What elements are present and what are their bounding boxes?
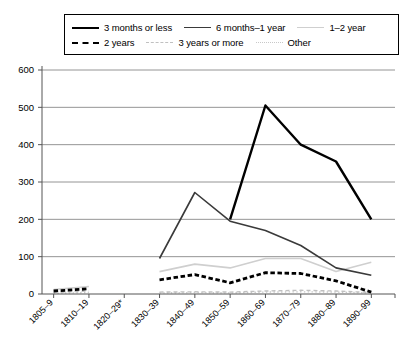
legend-label: Other [288, 37, 311, 48]
y-axis-tick-label: 200 [18, 214, 34, 225]
legend-label: 3 months or less [104, 22, 172, 33]
y-axis-ticks-group [38, 70, 42, 294]
legend-label: 2 years [104, 37, 134, 48]
y-axis-tick-label: 500 [18, 102, 34, 113]
series-line-other [54, 293, 89, 294]
series-line-3-years-or-more [160, 290, 372, 292]
legend-line-swatch-dotted-light-icon [256, 42, 283, 43]
y-axis-tick-label: 100 [18, 251, 34, 262]
x-axis-tick-label: 1850–59 [200, 297, 232, 329]
gridlines-group [42, 70, 395, 257]
legend-item-3-months-or-less: 3 months or less [72, 20, 184, 35]
x-axis-tick-label: 1870–79 [270, 297, 302, 329]
legend-label: 6 months–1 year [216, 22, 285, 33]
legend-line-swatch-solid-light-icon [297, 27, 324, 28]
series-line-6-months-1-year [160, 193, 372, 276]
legend-label: 3 years or more [178, 37, 243, 48]
legend-row-2: 2 years 3 years or more Other [72, 35, 391, 50]
chart-legend: 3 months or less 6 months–1 year 1–2 yea… [64, 14, 399, 55]
data-series-group [54, 106, 372, 294]
legend-item-6-months-1-year: 6 months–1 year [184, 20, 297, 35]
y-axis-tick-label: 600 [18, 64, 34, 75]
x-axis-tick-label: 1890–99 [341, 297, 373, 329]
series-line-1-2-year [160, 259, 372, 272]
legend-item-3-years-or-more: 3 years or more [146, 35, 255, 50]
x-axis-tick-label: 1805–9 [27, 297, 55, 325]
legend-line-swatch-solid-med-icon [184, 27, 211, 28]
axes-group [42, 66, 395, 294]
y-axis-tick-label: 400 [18, 139, 34, 150]
x-axis-tick-label: 1830–39 [129, 297, 161, 329]
legend-line-swatch-solid-thick-icon [72, 27, 99, 29]
x-axis-tick-label: 1880–89 [306, 297, 338, 329]
plot-area-wrapper: 0100200300400500600 1805–91810–191820–29… [0, 60, 418, 350]
line-chart-svg: 0100200300400500600 1805–91810–191820–29… [0, 60, 418, 350]
legend-line-swatch-dashed-light-icon [146, 42, 173, 43]
legend-line-swatch-dashed-thick-icon [72, 42, 99, 44]
y-axis-tick-label: 300 [18, 176, 34, 187]
x-axis-tick-label: 1840–49 [164, 297, 196, 329]
x-axis-tick-label: 1860–69 [235, 297, 267, 329]
x-axis-labels-group: 1805–91810–191820–29*1830–391840–491850–… [27, 297, 373, 332]
x-axis-tick-label: 1820–29* [91, 297, 126, 332]
legend-row-1: 3 months or less 6 months–1 year 1–2 yea… [72, 20, 391, 35]
chart-figure: 3 months or less 6 months–1 year 1–2 yea… [0, 0, 418, 350]
series-line-3-months-or-less [230, 106, 371, 220]
legend-label: 1–2 year [329, 22, 365, 33]
series-line-2-years [160, 273, 372, 292]
legend-item-1-2-year: 1–2 year [297, 20, 377, 35]
legend-item-2-years: 2 years [72, 35, 146, 50]
y-axis-tick-label: 0 [29, 288, 34, 299]
y-axis-labels-group: 0100200300400500600 [18, 64, 34, 299]
legend-item-other: Other [256, 35, 323, 50]
x-axis-tick-label: 1810–19 [59, 297, 91, 329]
